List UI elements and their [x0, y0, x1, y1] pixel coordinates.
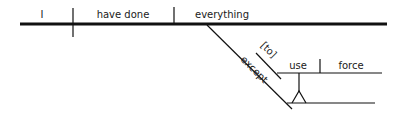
subject-word: I [41, 9, 44, 20]
infinitive-object-word: force [338, 60, 363, 71]
infinitive-marker-word: [to] [259, 40, 279, 60]
object-word: everything [195, 9, 249, 20]
sentence-diagram: I have done everything except [to] use f… [0, 0, 404, 119]
infinitive-verb-word: use [289, 60, 307, 71]
preposition-word: except [239, 54, 271, 86]
verb-word: have done [97, 9, 150, 20]
pedestal-triangle [292, 91, 306, 103]
